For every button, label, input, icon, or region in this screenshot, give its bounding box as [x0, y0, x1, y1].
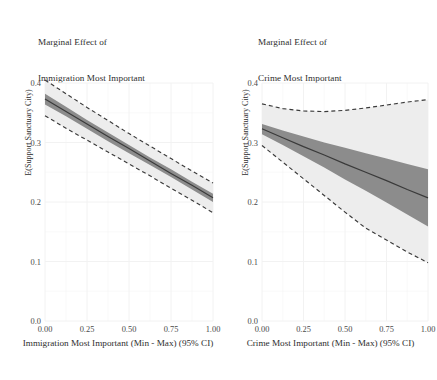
y-axis-title-immigration: E(Support Sanctuary City): [24, 58, 33, 208]
plot-canvas-crime: [262, 83, 428, 321]
x-tick-label: 0.25: [80, 325, 95, 334]
y-tick-label: 0.1: [31, 257, 41, 266]
y-axis-title-crime: E(Support Sanctuary City): [241, 58, 250, 208]
x-tick-label: 1.00: [421, 325, 436, 334]
x-tick-label: 0.75: [379, 325, 394, 334]
x-tick-label: 0.75: [164, 325, 179, 334]
x-tick-label: 1.00: [206, 325, 221, 334]
x-tick-label: 0.50: [122, 325, 137, 334]
panel-crime: Marginal Effect of Crime Most Important …: [220, 0, 437, 380]
panel-title-line-1: Marginal Effect of: [38, 36, 145, 48]
panel-immigration: Marginal Effect of Immigration Most Impo…: [0, 0, 220, 380]
marginal-effects-figure: Marginal Effect of Immigration Most Impo…: [0, 0, 437, 380]
plot-canvas-immigration: [45, 83, 213, 321]
x-tick-label: 0.25: [296, 325, 311, 334]
y-tick-label: 0.1: [248, 257, 258, 266]
plot-area-immigration: [45, 83, 213, 321]
plot-area-crime: [262, 83, 428, 321]
x-tick-label: 0.00: [38, 325, 53, 334]
x-axis-title-crime: Crime Most Important (Min - Max) (95% CI…: [222, 338, 437, 348]
x-tick-label: 0.50: [338, 325, 353, 334]
x-tick-label: 0.00: [255, 325, 270, 334]
panel-title-line-1: Marginal Effect of: [258, 36, 342, 48]
x-axis-title-immigration: Immigration Most Important (Min - Max) (…: [8, 338, 228, 348]
